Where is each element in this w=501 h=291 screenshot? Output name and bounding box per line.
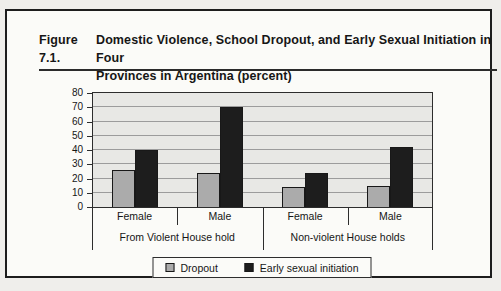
bar-early-sexual-initiation-3 — [305, 173, 328, 207]
bar-early-sexual-initiation-2 — [220, 107, 243, 207]
y-tick-label-30: 30 — [49, 158, 83, 170]
x-axis-category-divider — [348, 207, 349, 225]
bar-early-sexual-initiation-4 — [390, 147, 413, 207]
bar-dropout-4 — [367, 186, 390, 207]
y-tick-label-70: 70 — [49, 101, 83, 113]
legend-label: Early sexual initiation — [260, 262, 359, 274]
legend-swatch-early-sexual-initiation — [245, 263, 254, 272]
x-axis-group-divider — [432, 207, 433, 250]
group-label-2: Non-violent House holds — [263, 225, 434, 250]
x-axis-category-divider — [177, 207, 178, 225]
y-tick-label-10: 10 — [49, 187, 83, 199]
figure-title-line1: Domestic Violence, School Dropout, and E… — [96, 33, 491, 65]
bar-group-2-male — [178, 93, 263, 207]
bar-dropout-1 — [112, 170, 135, 207]
bar-dropout-3 — [282, 187, 305, 207]
plot-area — [92, 92, 433, 208]
category-label-2-male: Male — [177, 207, 262, 225]
category-label-1-female: Female — [92, 207, 177, 225]
figure-frame: Figure 7.1. Domestic Violence, School Dr… — [5, 9, 492, 278]
x-axis-group-divider — [263, 207, 264, 250]
group-label-1: From Violent House hold — [92, 225, 263, 250]
bar-dropout-2 — [197, 173, 220, 207]
y-axis: 01020304050607080 — [45, 93, 92, 207]
bar-group-3-female — [263, 93, 348, 207]
legend-label: Dropout — [181, 262, 218, 274]
bar-group-1-female — [93, 93, 178, 207]
bar-group-4-male — [347, 93, 432, 207]
legend-swatch-dropout — [166, 263, 175, 272]
y-tick-label-60: 60 — [49, 116, 83, 128]
legend-item-dropout: Dropout — [166, 262, 218, 274]
legend-item-early-sexual-initiation: Early sexual initiation — [245, 262, 359, 274]
figure-title-text: Domestic Violence, School Dropout, and E… — [96, 31, 497, 85]
category-label-3-female: Female — [263, 207, 348, 225]
figure-number: Figure 7.1. — [39, 31, 96, 67]
x-axis-group-divider — [92, 207, 93, 250]
x-axis: FemaleMaleFemaleMaleFrom Violent House h… — [92, 207, 433, 250]
y-tick-label-80: 80 — [49, 87, 83, 99]
legend: DropoutEarly sexual initiation — [153, 257, 372, 278]
y-tick-label-20: 20 — [49, 173, 83, 185]
title-divider-rule — [39, 69, 497, 71]
figure-title-line2: Provinces in Argentina (percent) — [96, 69, 292, 83]
figure-title: Figure 7.1. Domestic Violence, School Dr… — [39, 31, 497, 85]
bar-early-sexual-initiation-1 — [135, 150, 158, 207]
category-label-4-male: Male — [348, 207, 433, 225]
y-tick-label-0: 0 — [49, 201, 83, 213]
scanned-document-page: Figure 7.1. Domestic Violence, School Dr… — [0, 0, 501, 291]
y-tick-label-40: 40 — [49, 144, 83, 156]
y-tick-label-50: 50 — [49, 130, 83, 142]
